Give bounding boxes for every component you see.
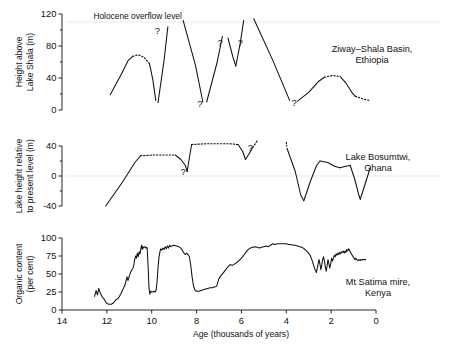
y-tick-label-bottom-3: 75 [46, 250, 56, 261]
y-axis-title-line1-bottom: Organic content [14, 243, 24, 304]
holocene-overflow-label: Holocene overflow level [93, 11, 182, 21]
uncertainty-marker-middle-0: ? [181, 166, 186, 177]
x-axis-title: Age (thousands of years) [193, 329, 289, 339]
x-tick-label-6: 2 [329, 315, 334, 326]
site-label-line2-middle: Ghana [364, 163, 392, 173]
y-tick-label-top-3: 120 [41, 8, 57, 19]
site-label-line1-middle: Lake Bosumtwi, [346, 152, 411, 162]
y-axis-title-line2-bottom: (per cent) [25, 255, 35, 292]
y-tick-label-bottom-2: 50 [46, 268, 56, 279]
uncertainty-marker-top-5: ? [292, 97, 297, 108]
y-tick-label-top-1: 40 [46, 72, 56, 83]
x-tick-label-5: 4 [284, 315, 289, 326]
uncertainty-marker-top-3: ? [218, 37, 223, 48]
x-tick-label-3: 8 [194, 315, 199, 326]
y-axis-title-top: Height aboveLake Shala (m) [14, 33, 35, 91]
uncertainty-marker-top-1: ? [155, 25, 160, 36]
site-label-line2-top: Ethiopia [355, 55, 389, 65]
figure-root: 04080120Holocene overflow level?????Heig… [0, 0, 468, 360]
uncertainty-marker-middle-1: ? [248, 142, 253, 153]
x-tick-label-4: 6 [239, 315, 244, 326]
y-tick-label-top-2: 80 [46, 40, 56, 51]
y-tick-label-middle-2: 40 [46, 140, 56, 151]
y-axis-title-line2-middle: to present level (m) [25, 139, 35, 213]
site-label-line2-bottom: Kenya [365, 288, 392, 298]
y-axis-title-line1-middle: Lake height relative [14, 139, 24, 214]
y-tick-label-top-0: 0 [51, 104, 56, 115]
uncertainty-marker-top-2: ? [197, 98, 202, 109]
y-tick-label-bottom-0: 0 [51, 304, 56, 315]
x-tick-label-2: 10 [146, 315, 156, 326]
site-label-line1-top: Ziway–Shala Basin, [332, 44, 413, 54]
y-axis-title-line1-top: Height above [14, 36, 24, 87]
y-tick-label-middle-0: -40 [43, 200, 57, 211]
x-tick-label-0: 14 [57, 315, 67, 326]
figure-background [0, 0, 468, 360]
y-tick-label-bottom-1: 25 [46, 286, 56, 297]
y-axis-title-middle: Lake height relativeto present level (m) [14, 139, 35, 214]
x-tick-label-1: 12 [102, 315, 112, 326]
y-tick-label-middle-1: 0 [51, 170, 56, 181]
y-tick-label-bottom-4: 100 [41, 232, 57, 243]
x-tick-label-7: 0 [373, 315, 378, 326]
uncertainty-marker-top-4: ? [238, 37, 243, 48]
site-label-line1-bottom: Mt Satima mire, [346, 277, 410, 287]
y-axis-title-line2-top: Lake Shala (m) [25, 33, 35, 91]
